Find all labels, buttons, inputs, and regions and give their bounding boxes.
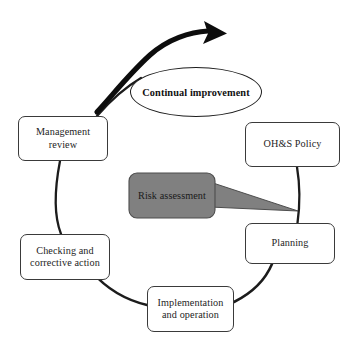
connector-policy-to-planning [297, 167, 299, 223]
node-planning[interactable]: Planning [245, 223, 335, 264]
risk-assessment-callout-tail [210, 182, 298, 211]
node-checking-and-corrective-action-label: Checking and corrective action [27, 245, 103, 269]
node-ohs-policy-label: OH&S Policy [261, 138, 325, 150]
connector-planning-to-implementation [234, 264, 272, 302]
node-continual-improvement-label: Continual improvement [142, 87, 249, 98]
node-checking-and-corrective-action[interactable]: Checking and corrective action [20, 234, 110, 280]
node-implementation-and-operation[interactable]: Implementation and operation [147, 286, 234, 332]
node-implementation-and-operation-label: Implementation and operation [155, 297, 227, 321]
diagram-canvas: Continual improvement OH&S Policy Planni… [0, 0, 351, 356]
connector-checking-to-management [56, 161, 61, 234]
node-ohs-policy[interactable]: OH&S Policy [245, 122, 340, 167]
node-planning-label: Planning [268, 237, 311, 249]
node-management-review[interactable]: Management review [18, 116, 108, 161]
node-risk-assessment-label: Risk assessment [138, 190, 206, 201]
node-management-review-label: Management review [33, 126, 93, 150]
node-continual-improvement[interactable]: Continual improvement [130, 67, 262, 117]
node-risk-assessment[interactable]: Risk assessment [129, 173, 215, 218]
